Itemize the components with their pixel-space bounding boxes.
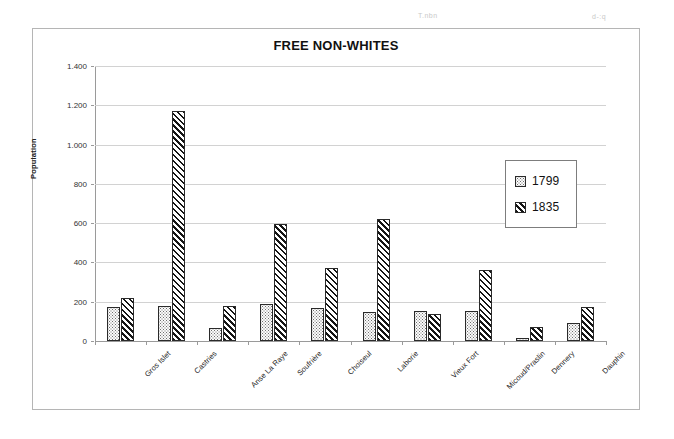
x-category-label: Choiseul: [346, 349, 374, 377]
x-tick-mark: [504, 341, 505, 345]
bar-group: [363, 66, 390, 341]
legend-item-1835: 1835: [515, 200, 560, 214]
bar-1835-anse-la-raye[interactable]: [223, 306, 236, 341]
y-tick-label: 1.400: [51, 62, 87, 71]
bar-1799-micoud-praslin[interactable]: [465, 311, 478, 341]
bar-1799-laborie[interactable]: [363, 312, 376, 341]
x-category-label: Laborie: [396, 349, 421, 374]
x-tick-mark: [453, 341, 454, 345]
bar-1799-choiseul[interactable]: [311, 308, 324, 341]
legend-label-1799: 1799: [532, 174, 560, 188]
bar-group: [311, 66, 338, 341]
bar-group: [414, 66, 441, 341]
x-tick-mark: [146, 341, 147, 345]
x-category-label: Micoud/Praslin: [505, 349, 547, 391]
legend-item-1799: 1799: [515, 174, 560, 188]
bar-1835-laborie[interactable]: [377, 219, 390, 341]
legend-swatch-1799-icon: [515, 176, 526, 187]
y-tick-label: 400: [51, 258, 87, 267]
x-category-label: Dennery: [550, 349, 577, 376]
x-category-label: Soufrière: [295, 349, 324, 378]
bar-1835-gros-islet[interactable]: [121, 298, 134, 341]
x-tick-mark: [95, 341, 96, 345]
x-tick-mark: [248, 341, 249, 345]
bar-group: [107, 66, 134, 341]
bar-1835-choiseul[interactable]: [325, 268, 338, 341]
bar-1835-castries[interactable]: [172, 111, 185, 341]
x-tick-mark: [402, 341, 403, 345]
scan-artifact-left: T.nbn: [418, 12, 438, 19]
scan-artifact-right: d-:q: [592, 13, 606, 20]
y-tick-mark: [91, 105, 94, 106]
chart-container: FREE NON-WHITES Population 0200400600800…: [32, 28, 640, 410]
bar-1835-vieux-fort[interactable]: [428, 314, 441, 341]
legend-swatch-1835-icon: [515, 202, 526, 213]
bar-1835-dennery[interactable]: [530, 327, 543, 341]
bar-1835-soufri-re[interactable]: [274, 224, 287, 341]
x-category-label: Castries: [192, 349, 218, 375]
x-tick-mark: [606, 341, 607, 345]
bar-group: [260, 66, 287, 341]
bar-1835-micoud-praslin[interactable]: [479, 270, 492, 341]
y-tick-mark: [91, 302, 94, 303]
y-tick-mark: [91, 184, 94, 185]
chart-title: FREE NON-WHITES: [33, 38, 639, 53]
chart-legend: 1799 1835: [505, 160, 577, 228]
bar-1799-castries[interactable]: [158, 306, 171, 341]
y-tick-label: 1.000: [51, 141, 87, 150]
bar-1799-dauphin[interactable]: [567, 323, 580, 341]
y-tick-mark: [91, 341, 94, 342]
x-tick-mark: [299, 341, 300, 345]
bar-1799-soufri-re[interactable]: [260, 304, 273, 341]
x-tick-mark: [351, 341, 352, 345]
x-tick-mark: [555, 341, 556, 345]
x-category-label: Anse La Raye: [249, 349, 290, 390]
y-tick-label: 600: [51, 219, 87, 228]
legend-label-1835: 1835: [532, 200, 560, 214]
y-tick-label: 1.200: [51, 101, 87, 110]
bar-1835-dauphin[interactable]: [581, 307, 594, 341]
y-tick-label: 800: [51, 180, 87, 189]
y-tick-mark: [91, 145, 94, 146]
bar-group: [465, 66, 492, 341]
y-tick-mark: [91, 262, 94, 263]
x-category-label: Gros Islet: [142, 349, 172, 379]
bar-1799-gros-islet[interactable]: [107, 307, 120, 341]
bar-1799-anse-la-raye[interactable]: [209, 328, 222, 341]
x-category-label: Vieux Fort: [449, 349, 480, 380]
y-tick-label: 0: [51, 337, 87, 346]
y-axis-title: Population: [29, 138, 38, 179]
bar-1799-vieux-fort[interactable]: [414, 311, 427, 341]
bar-group: [209, 66, 236, 341]
y-tick-mark: [91, 66, 94, 67]
y-tick-mark: [91, 223, 94, 224]
bar-group: [158, 66, 185, 341]
y-tick-label: 200: [51, 298, 87, 307]
x-tick-mark: [197, 341, 198, 345]
bar-1799-dennery[interactable]: [516, 338, 529, 341]
x-category-label: Dauphin: [601, 349, 628, 376]
